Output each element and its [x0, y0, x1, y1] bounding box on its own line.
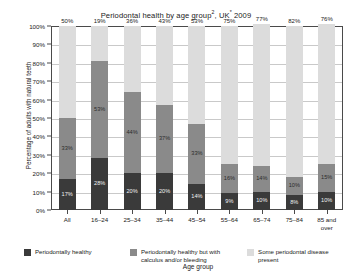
bar-segment-label: 53%: [191, 18, 203, 24]
x-axis-tick-label: 16–24: [83, 210, 115, 240]
y-axis-ticks: 0%10%20%30%40%50%60%70%80%90%100%: [0, 26, 51, 210]
stacked-bar[interactable]: 36%44%20%: [124, 26, 141, 210]
bar-segment-label: 53%: [94, 107, 105, 113]
bar-segment[interactable]: [188, 26, 205, 124]
legend-label: Periodontally healthy but with calculus …: [141, 248, 238, 264]
bar-segment-label: 33%: [62, 146, 73, 152]
y-axis-tick-label: 10%: [33, 188, 45, 195]
x-axis-tick-label: 25–34: [116, 210, 148, 240]
x-axis-tick-mark: [294, 210, 295, 214]
bar-column[interactable]: 36%44%20%: [116, 26, 148, 210]
bar-segment-label: 16%: [224, 176, 235, 182]
bar-segment[interactable]: 17%: [59, 179, 76, 210]
bar-segment[interactable]: [91, 26, 108, 61]
x-axis-tick-mark: [165, 210, 166, 214]
bar-segment[interactable]: 53%: [91, 61, 108, 159]
x-axis-tick-label: 85 and over: [311, 210, 343, 240]
x-axis-tick-label: 35–44: [148, 210, 180, 240]
bar-segment[interactable]: 44%: [124, 92, 141, 173]
bar-segment-label: 75%: [223, 18, 235, 24]
bar-segment[interactable]: 28%: [91, 158, 108, 210]
bar-column[interactable]: 43%37%20%: [148, 26, 180, 210]
x-axis-tick-mark: [327, 210, 328, 214]
legend-label: Periodontally healthy: [35, 248, 92, 256]
bar-segment[interactable]: 10%: [286, 177, 303, 195]
chart-legend: Periodontally healthyPeriodontally healt…: [24, 248, 344, 264]
x-axis-tick-label: 65–74: [246, 210, 278, 240]
bar-segment[interactable]: 33%: [188, 124, 205, 185]
bar-segment[interactable]: [253, 24, 270, 166]
y-axis-tick-label: 80%: [33, 59, 45, 66]
bar-series-group: 50%33%17%19%53%28%36%44%20%43%37%20%53%3…: [51, 26, 343, 210]
x-axis-tick-label: All: [51, 210, 83, 240]
x-axis-tick-mark: [197, 210, 198, 214]
x-axis-tick-label: 45–54: [181, 210, 213, 240]
bar-segment[interactable]: 20%: [124, 173, 141, 210]
bar-segment[interactable]: 14%: [188, 184, 205, 210]
x-axis-tick-mark: [100, 210, 101, 214]
bar-segment-label: 9%: [225, 199, 233, 205]
bar-segment-label: 8%: [290, 200, 298, 206]
bar-segment[interactable]: [221, 26, 238, 164]
chart-container: Periodontal health by age group2, UK* 20…: [0, 0, 352, 280]
stacked-bar[interactable]: 19%53%28%: [91, 26, 108, 210]
x-axis-tick-label: 55–64: [213, 210, 245, 240]
x-axis-tick-mark: [67, 210, 68, 214]
stacked-bar[interactable]: 50%33%17%: [59, 26, 76, 210]
bar-column[interactable]: 50%33%17%: [51, 26, 83, 210]
bar-segment[interactable]: 14%: [253, 166, 270, 192]
bar-segment-label: 19%: [94, 18, 106, 24]
y-axis-tick-label: 0%: [36, 207, 45, 214]
bar-column[interactable]: 77%14%10%: [246, 26, 278, 210]
bar-segment-label: 14%: [256, 176, 267, 182]
bar-segment-label: 20%: [159, 189, 170, 195]
bar-segment-label: 37%: [159, 136, 170, 142]
bar-column[interactable]: 76%15%10%: [311, 26, 343, 210]
stacked-bar[interactable]: 43%37%20%: [156, 26, 173, 210]
bar-segment-label: 43%: [159, 18, 171, 24]
bar-segment[interactable]: 10%: [253, 192, 270, 210]
legend-item[interactable]: Some periodontal disease present: [247, 248, 344, 264]
legend-item[interactable]: Periodontally healthy but with calculus …: [130, 248, 238, 264]
legend-item[interactable]: Periodontally healthy: [24, 248, 121, 256]
stacked-bar[interactable]: 82%10%8%: [286, 26, 303, 210]
bar-segment[interactable]: 37%: [156, 105, 173, 173]
x-axis-tick-mark: [262, 210, 263, 214]
bar-segment-label: 44%: [126, 130, 137, 136]
stacked-bar[interactable]: 75%16%9%: [221, 26, 238, 210]
legend-swatch-icon: [247, 249, 254, 256]
bar-segment[interactable]: [124, 26, 141, 92]
x-axis-tick-label: 75–84: [278, 210, 310, 240]
y-axis-tick-label: 20%: [33, 170, 45, 177]
y-axis-tick-label: 90%: [33, 41, 45, 48]
y-axis-tick-label: 40%: [33, 133, 45, 140]
bar-segment[interactable]: 16%: [221, 164, 238, 193]
y-axis-tick-label: 30%: [33, 151, 45, 158]
bar-segment-label: 28%: [94, 181, 105, 187]
stacked-bar[interactable]: 77%14%10%: [253, 24, 270, 210]
bar-segment[interactable]: [286, 26, 303, 177]
bar-column[interactable]: 19%53%28%: [83, 26, 115, 210]
bar-segment-label: 17%: [62, 192, 73, 198]
bar-segment-label: 15%: [321, 175, 332, 181]
bar-segment-label: 82%: [288, 18, 300, 24]
bar-segment[interactable]: [318, 24, 335, 164]
bar-column[interactable]: 82%10%8%: [278, 26, 310, 210]
bar-segment[interactable]: 10%: [318, 192, 335, 210]
bar-segment-label: 14%: [191, 194, 202, 200]
stacked-bar[interactable]: 76%15%10%: [318, 24, 335, 210]
bar-segment-label: 76%: [321, 16, 333, 22]
bar-column[interactable]: 53%33%14%: [181, 26, 213, 210]
y-axis-tick-label: 60%: [33, 96, 45, 103]
x-axis-tick-mark: [132, 210, 133, 214]
bar-segment[interactable]: 33%: [59, 118, 76, 179]
bar-segment[interactable]: 15%: [318, 164, 335, 192]
bar-segment[interactable]: 9%: [221, 193, 238, 210]
bar-column[interactable]: 75%16%9%: [213, 26, 245, 210]
bar-segment[interactable]: [59, 26, 76, 118]
legend-label: Some periodontal disease present: [258, 248, 344, 264]
bar-segment[interactable]: [156, 26, 173, 105]
stacked-bar[interactable]: 53%33%14%: [188, 26, 205, 210]
bar-segment[interactable]: 8%: [286, 195, 303, 210]
bar-segment[interactable]: 20%: [156, 173, 173, 210]
